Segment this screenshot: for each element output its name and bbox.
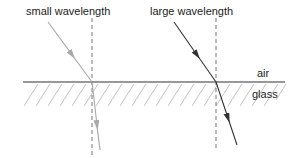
glass-label: glass — [252, 88, 278, 100]
glass-hatching — [24, 84, 286, 106]
large-wavelength-ray — [174, 22, 237, 145]
small-wavelength-label: small wavelength — [26, 5, 110, 17]
refraction-diagram — [0, 0, 300, 158]
large-wavelength-label: large wavelength — [150, 5, 233, 17]
air-label: air — [257, 67, 269, 79]
